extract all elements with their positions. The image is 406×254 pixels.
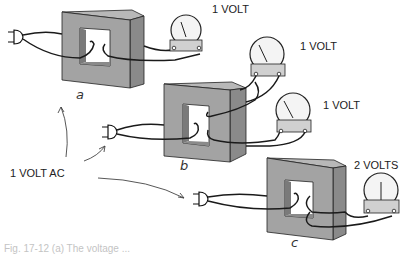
plug-b-icon bbox=[102, 125, 117, 139]
core-c bbox=[267, 158, 346, 240]
arrow-to-a-icon bbox=[58, 107, 67, 157]
voltmeter-c-icon bbox=[364, 173, 399, 213]
source-label: 1 VOLT AC bbox=[10, 167, 65, 179]
panel-c-letter: c bbox=[291, 235, 298, 249]
meter-b1-label: 1 VOLT bbox=[300, 40, 337, 52]
figure-caption: Fig. 17-12 (a) The voltage ... bbox=[4, 243, 130, 254]
voltmeter-b1-icon bbox=[250, 37, 285, 76]
panel-b-letter: b bbox=[180, 158, 188, 173]
meter-a-label: 1 VOLT bbox=[212, 3, 249, 15]
arrow-to-b-icon bbox=[84, 146, 105, 161]
panel-a-letter: a bbox=[76, 87, 84, 102]
core-b bbox=[164, 82, 246, 162]
plug-a-icon bbox=[8, 30, 23, 44]
meter-b2-label: 1 VOLT bbox=[323, 99, 360, 111]
meter-c-label: 2 VOLTS bbox=[354, 159, 398, 171]
voltmeter-b2-icon bbox=[276, 93, 311, 133]
panel-c: 2 VOLTS c bbox=[193, 158, 399, 249]
voltmeter-a-icon bbox=[170, 15, 202, 51]
arrow-to-c-icon bbox=[98, 178, 184, 198]
plug-c-icon bbox=[193, 192, 208, 206]
